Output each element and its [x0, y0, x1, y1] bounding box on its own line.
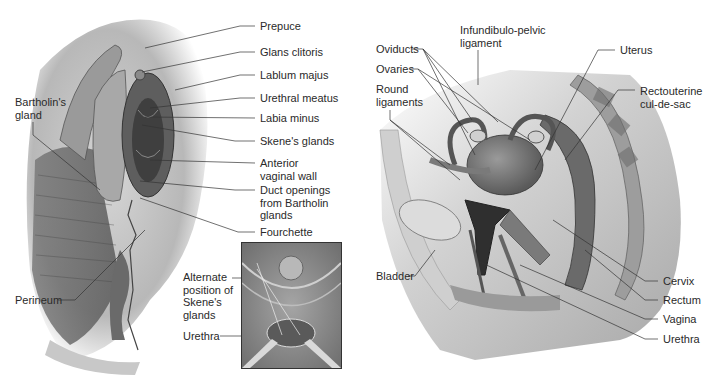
sagittal-anatomy-panel: Oviducts Ovaries Round ligaments Bladder…: [360, 0, 718, 379]
label-labia-minus: Labia minus: [260, 112, 319, 125]
label-bartholins-gland: Bartholin's gland: [15, 96, 66, 121]
label-urethra-inset: Urethra: [183, 330, 220, 343]
label-rectouterine-cul-de-sac: Rectouterine cul-de-sac: [640, 85, 702, 110]
label-skenes-glands: Skene's glands: [260, 135, 334, 148]
label-fourchette: Fourchette: [260, 226, 313, 239]
label-prepuce: Prepuce: [260, 20, 301, 33]
label-rectum: Rectum: [663, 294, 701, 307]
label-perineum: Perineum: [15, 294, 62, 307]
label-vagina: Vagina: [663, 313, 696, 326]
label-ovaries: Ovaries: [376, 63, 414, 76]
external-anatomy-panel: Prepuce Glans clitoris Lablum majus Uret…: [0, 0, 360, 379]
label-labium-majus: Lablum majus: [260, 69, 328, 82]
label-alternate-skenes: Alternate position of Skene's glands: [183, 271, 233, 321]
label-anterior-vaginal-wall: Anterior vaginal wall: [260, 157, 317, 182]
label-urethral-meatus: Urethral meatus: [260, 92, 338, 105]
label-round-ligaments: Round ligaments: [376, 83, 423, 108]
label-uterus: Uterus: [620, 44, 652, 57]
inset-illustration: [242, 243, 341, 368]
label-oviducts: Oviducts: [376, 43, 419, 56]
inset-urethra-detail: [241, 242, 342, 369]
label-urethra: Urethra: [663, 333, 700, 346]
label-infundibulo-pelvic-ligament: Infundibulo-pelvic ligament: [460, 24, 546, 49]
label-cervix: Cervix: [663, 275, 694, 288]
label-glans-clitoris: Glans clitoris: [260, 46, 323, 59]
label-bladder: Bladder: [376, 270, 414, 283]
label-duct-openings: Duct openings from Bartholin glands: [260, 184, 330, 222]
